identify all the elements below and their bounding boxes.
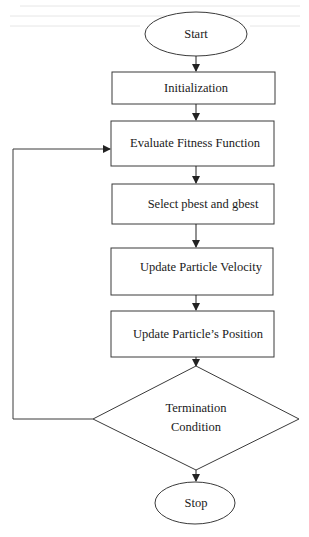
termination-label-line1: Termination [166, 401, 228, 415]
flowchart-canvas: Start Initialization Evaluate Fitness Fu… [0, 0, 309, 537]
initialization-label: Initialization [164, 81, 229, 95]
update-velocity-node: Update Particle Velocity [111, 248, 273, 295]
evaluate-fitness-label: Evaluate Fitness Function [130, 136, 261, 150]
termination-condition-node: Termination Condition [93, 366, 299, 470]
update-position-node: Update Particle’s Position [111, 311, 274, 357]
update-position-label: Update Particle’s Position [133, 327, 264, 341]
termination-label-line2: Condition [171, 420, 222, 434]
stop-node: Stop [155, 482, 235, 524]
select-pbest-gbest-label: Select pbest and gbest [148, 197, 259, 211]
loop-back-arrow [13, 149, 110, 419]
evaluate-fitness-node: Evaluate Fitness Function [111, 121, 274, 166]
start-node: Start [145, 12, 247, 56]
stop-label: Stop [185, 496, 208, 510]
update-velocity-label: Update Particle Velocity [140, 260, 263, 274]
start-label: Start [184, 27, 208, 41]
initialization-node: Initialization [112, 72, 275, 104]
select-pbest-gbest-node: Select pbest and gbest [112, 184, 274, 224]
